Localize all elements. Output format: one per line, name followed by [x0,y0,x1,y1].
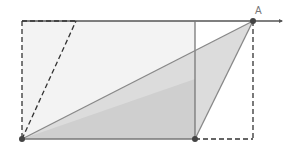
point-bottom-left [19,136,25,142]
axis-arrow-icon [279,19,283,23]
point-a [250,18,256,24]
geometry-diagram: A [0,0,300,153]
point-bottom-mid [192,136,198,142]
diagram-svg [0,0,300,153]
point-a-label: A [255,5,262,16]
